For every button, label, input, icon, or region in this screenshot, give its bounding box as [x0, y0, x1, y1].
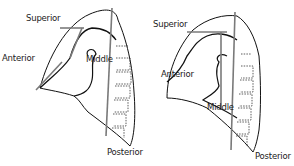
division-lines: [36, 8, 112, 136]
vertebrae-dotted: [112, 46, 131, 138]
label-posterior: Posterior: [107, 148, 143, 157]
label-middle: Middle: [207, 103, 234, 112]
chest-outline-left: [0, 0, 147, 166]
label-anterior: Anterior: [161, 70, 194, 79]
thorax-outline: [167, 16, 261, 152]
anterior-division-line: [36, 62, 62, 90]
diagram-panel-right: Superior Anterior Middle Posterior: [147, 0, 294, 166]
vertebrae-dotted: [236, 54, 253, 146]
division-lines: [187, 12, 235, 150]
diagram-panel-left: Superior Anterior Middle Posterior: [0, 0, 147, 166]
label-superior: Superior: [26, 14, 60, 23]
label-anterior: Anterior: [2, 54, 35, 63]
label-posterior: Posterior: [255, 152, 291, 161]
posterior-division-line: [231, 12, 235, 150]
label-middle: Middle: [86, 55, 113, 64]
label-superior: Superior: [153, 20, 187, 29]
posterior-division-line: [106, 8, 112, 136]
